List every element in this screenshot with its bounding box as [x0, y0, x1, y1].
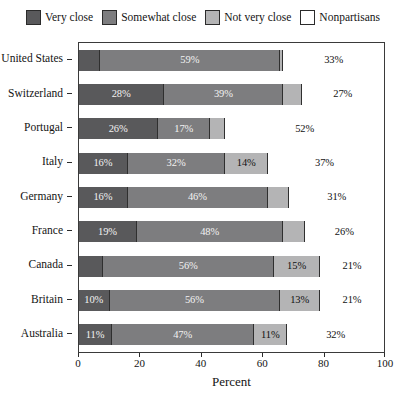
bar-row: 11%47%11%32%	[79, 324, 384, 345]
x-axis-tick-label: 0	[75, 358, 81, 369]
bar-segment	[79, 256, 103, 277]
bar-segment: 39%	[164, 84, 283, 105]
bar-segment: 10%	[79, 290, 110, 311]
legend-swatch-icon	[205, 10, 220, 25]
bar-segment: 11%	[79, 324, 112, 345]
bar-segment-label: 56%	[185, 295, 204, 306]
bar-segment: 28%	[79, 84, 164, 105]
y-axis-tick: France	[0, 220, 72, 241]
bar-segment	[283, 221, 304, 242]
bar-segment: 16%	[79, 153, 128, 174]
legend-label: Somewhat close	[121, 12, 196, 24]
bar-segment-label: 31%	[327, 192, 346, 203]
stacked-bar-chart: Very closeSomewhat closeNot very closeNo…	[0, 0, 406, 397]
chart-legend: Very closeSomewhat closeNot very closeNo…	[0, 10, 406, 25]
legend-swatch-icon	[26, 10, 41, 25]
bar-segment-label: 17%	[174, 124, 193, 135]
bar-segment-label: 32%	[326, 330, 345, 341]
x-axis-tick-label: 100	[377, 358, 394, 369]
bar-segment: 52%	[225, 118, 384, 139]
bar-segment: 14%	[225, 153, 268, 174]
y-axis-tick: United States	[0, 49, 72, 70]
bar-segment: 21%	[320, 290, 384, 311]
bar-segment-label: 21%	[342, 261, 361, 272]
y-axis-tick-label: Canada	[29, 259, 63, 271]
y-axis-tick-dash-icon	[67, 299, 72, 300]
y-axis-tick-dash-icon	[67, 333, 72, 334]
bar-segment-label: 21%	[342, 295, 361, 306]
bar-segment: 26%	[305, 221, 384, 242]
bar-row: 28%39%27%	[79, 84, 384, 105]
bar-segment	[210, 118, 225, 139]
bar-segment: 48%	[137, 221, 283, 242]
bar-segment-label: 52%	[295, 124, 314, 135]
y-axis-tick-label: Portugal	[24, 122, 63, 134]
y-axis-tick-label: United States	[1, 53, 63, 65]
bar-segment-label: 26%	[335, 227, 354, 238]
bar-segment: 13%	[280, 290, 320, 311]
y-axis-tick-label: Switzerland	[8, 88, 63, 100]
bar-segment: 11%	[254, 324, 287, 345]
bar-row: 19%48%26%	[79, 221, 384, 242]
legend-item: Nonpartisans	[300, 10, 380, 25]
x-axis-tick-label: 40	[195, 358, 206, 369]
bar-segment-label: 11%	[261, 330, 280, 341]
bar-segment: 15%	[274, 256, 320, 277]
bar-segment-label: 46%	[188, 192, 207, 203]
bar-segment-label: 11%	[86, 330, 105, 341]
x-axis-title: Percent	[78, 374, 385, 390]
x-axis-tick-label: 80	[318, 358, 329, 369]
legend-swatch-icon	[300, 10, 315, 25]
y-axis-tick: Australia	[0, 323, 72, 344]
y-axis-tick-label: Germany	[20, 191, 63, 203]
legend-swatch-icon	[102, 10, 117, 25]
bar-row: 16%46%31%	[79, 187, 384, 208]
bar-segment: 21%	[320, 256, 384, 277]
bar-segment: 56%	[110, 290, 281, 311]
bar-segment: 47%	[112, 324, 254, 345]
bar-segment: 26%	[79, 118, 158, 139]
bar-segment-label: 39%	[214, 89, 233, 100]
bar-segment	[283, 84, 301, 105]
bar-row: 56%15%21%	[79, 256, 384, 277]
x-axis: 020406080100	[78, 353, 385, 373]
bar-segment	[79, 50, 100, 71]
bar-segment-label: 56%	[179, 261, 198, 272]
bar-segment: 16%	[79, 187, 128, 208]
x-axis-tick-label: 20	[134, 358, 145, 369]
bar-row: 10%56%13%21%	[79, 290, 384, 311]
bar-segment: 59%	[100, 50, 280, 71]
bar-segment: 46%	[128, 187, 268, 208]
bar-segment: 27%	[302, 84, 384, 105]
bar-segment-label: 14%	[237, 158, 256, 169]
y-axis-tick-dash-icon	[67, 93, 72, 94]
y-axis-tick: Canada	[0, 255, 72, 276]
y-axis-tick-label: Italy	[42, 156, 63, 168]
x-axis-tick-label: 60	[257, 358, 268, 369]
bar-segment: 32%	[128, 153, 226, 174]
bar-segment: 37%	[268, 153, 381, 174]
bar-segment-label: 59%	[180, 55, 199, 66]
y-axis-tick-label: France	[32, 225, 63, 237]
legend-item: Not very close	[205, 10, 291, 25]
bar-row: 59%33%	[79, 50, 384, 71]
plot-area: 59%33%28%39%27%26%17%52%16%32%14%37%16%4…	[78, 42, 385, 353]
bar-segment: 17%	[158, 118, 210, 139]
y-axis-tick-dash-icon	[67, 127, 72, 128]
bar-segment-label: 19%	[98, 227, 117, 238]
bar-segment-label: 16%	[93, 158, 112, 169]
y-axis-tick-dash-icon	[67, 265, 72, 266]
bar-segment-label: 28%	[112, 89, 131, 100]
y-axis-tick: Italy	[0, 152, 72, 173]
legend-label: Not very close	[224, 12, 291, 24]
bar-segment-label: 26%	[109, 124, 128, 135]
y-axis-tick: Germany	[0, 186, 72, 207]
bar-segment	[268, 187, 289, 208]
bar-segment-label: 32%	[167, 158, 186, 169]
bar-segment-label: 27%	[333, 89, 352, 100]
bar-segment: 19%	[79, 221, 137, 242]
y-axis-tick-label: Australia	[21, 328, 63, 340]
legend-item: Somewhat close	[102, 10, 196, 25]
bar-segment: 32%	[287, 324, 384, 345]
y-axis-tick: Switzerland	[0, 83, 72, 104]
